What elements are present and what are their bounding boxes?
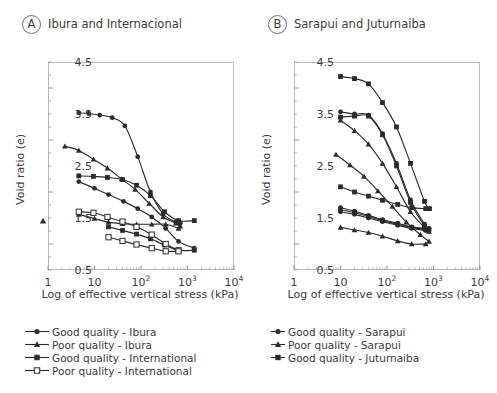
ytick-1-5: 1.5 <box>75 212 93 225</box>
ytick-1-5: 1.5 <box>317 212 335 225</box>
xtick-1e4: 104 <box>471 274 490 289</box>
legend-key-open-square <box>24 364 50 377</box>
legend-label: Good quality - Sarapui <box>286 326 405 338</box>
legend-key-filled-triangle <box>24 338 50 351</box>
legend-key-filled-triangle <box>270 338 286 351</box>
ytick-4-5: 4.5 <box>317 56 335 69</box>
legend-item: Good quality - Juturnaiba <box>270 351 419 364</box>
ytick-3-5: 3.5 <box>75 108 93 121</box>
xtick-1e2: 102 <box>378 274 397 289</box>
panel-a-header: A Ibura and Internacional <box>22 14 182 34</box>
panel-a: A Ibura and Internacional 4.5 3.5 2.5 1.… <box>0 0 250 393</box>
panel-b: B Sarapui and Juturnaiba 4.5 3.5 2.5 1.5… <box>250 0 497 393</box>
legend-label: Poor quality - Ibura <box>50 339 152 351</box>
panel-b-badge: B <box>268 15 287 34</box>
panel-a-plot: 4.5 3.5 2.5 1.5 0.5 1 10 102 103 104 <box>48 62 234 270</box>
legend-label: Poor quality - International <box>50 365 192 377</box>
legend-label: Poor quality - Sarapui <box>286 339 401 351</box>
xtick-1e3: 103 <box>178 274 197 289</box>
panel-b-title: Sarapui and Juturnaiba <box>294 17 426 31</box>
panel-b-x-axis-label: Log of effective vertical stress (kPa) <box>286 288 486 301</box>
panel-b-header: B Sarapui and Juturnaiba <box>268 14 426 34</box>
panel-b-ytick-column: 4.5 3.5 2.5 1.5 0.5 <box>308 62 334 270</box>
panel-b-legend: Good quality - Sarapui Poor quality - Sa… <box>270 325 419 364</box>
panel-b-y-axis-label: Void ratio (e) <box>260 134 273 205</box>
legend-item: Poor quality - International <box>24 364 196 377</box>
ytick-3-5: 3.5 <box>317 108 335 121</box>
legend-key-filled-circle <box>270 325 286 338</box>
xtick-1e4: 104 <box>225 274 244 289</box>
legend-label: Good quality - International <box>50 352 196 364</box>
legend-item: Good quality - International <box>24 351 196 364</box>
panel-b-plot: 4.5 3.5 2.5 1.5 0.5 1 10 102 103 104 <box>294 62 480 270</box>
xtick-1e2: 102 <box>132 274 151 289</box>
panel-a-badge: A <box>22 15 41 34</box>
consolidation-curves-figure: A Ibura and Internacional 4.5 3.5 2.5 1.… <box>0 0 497 393</box>
ytick-4-5: 4.5 <box>75 56 93 69</box>
panel-a-y-axis-label: Void ratio (e) <box>14 134 27 205</box>
ytick-2-5: 2.5 <box>317 160 335 173</box>
legend-item: Poor quality - Sarapui <box>270 338 419 351</box>
xtick-10: 10 <box>334 274 348 289</box>
xtick-1: 1 <box>291 274 298 289</box>
legend-label: Good quality - Juturnaiba <box>286 352 419 364</box>
xtick-10: 10 <box>88 274 102 289</box>
legend-key-filled-square <box>24 351 50 364</box>
stray-triangle-marker <box>38 216 48 226</box>
ytick-2-5: 2.5 <box>75 160 93 173</box>
ytick-0-5: 0.5 <box>317 264 335 277</box>
panel-a-title: Ibura and Internacional <box>48 17 182 31</box>
panel-a-ytick-column: 4.5 3.5 2.5 1.5 0.5 <box>66 62 92 270</box>
legend-key-filled-circle <box>24 325 50 338</box>
legend-item: Poor quality - Ibura <box>24 338 196 351</box>
panel-a-x-axis-label: Log of effective vertical stress (kPa) <box>40 288 240 301</box>
xtick-1e3: 103 <box>424 274 443 289</box>
xtick-1: 1 <box>45 274 52 289</box>
legend-item: Good quality - Ibura <box>24 325 196 338</box>
legend-item: Good quality - Sarapui <box>270 325 419 338</box>
legend-key-filled-square <box>270 351 286 364</box>
legend-label: Good quality - Ibura <box>50 326 157 338</box>
panel-a-legend: Good quality - Ibura Poor quality - Ibur… <box>24 325 196 377</box>
